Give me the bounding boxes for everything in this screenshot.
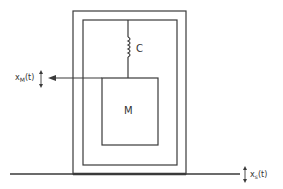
support-displacement-label: xs(t) — [250, 170, 267, 180]
arrow-left-icon — [48, 75, 56, 81]
outer-housing — [73, 11, 186, 174]
spring-label: C — [136, 43, 143, 54]
double-arrow-vertical-icon — [243, 166, 247, 183]
spring-coil — [128, 37, 130, 57]
svg-text:xs(t): xs(t) — [250, 170, 267, 180]
diagram-canvas: C M xM(t) xs(t) — [0, 0, 283, 189]
mass-label: M — [124, 105, 133, 116]
mass-displacement-label: xM(t) — [15, 73, 34, 83]
double-arrow-vertical-icon — [39, 70, 43, 88]
svg-text:xM(t): xM(t) — [15, 73, 34, 83]
